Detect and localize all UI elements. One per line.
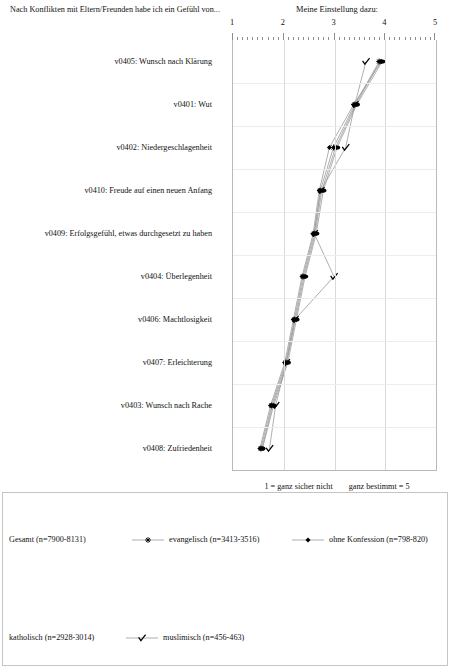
legend-label-gesamt: Gesamt (n=7900-8131) [9,533,86,547]
horizontal-gridline [233,341,436,342]
horizontal-gridline [233,169,436,170]
horizontal-gridline [233,255,436,256]
horizontal-gridline [233,126,436,127]
category-label: v0404: Überlegenheit [0,272,218,282]
legend-item-evangelisch: evangelisch (n=3413-3516) [131,533,259,547]
check-icon [125,632,159,644]
legend-item-gesamt: Gesamt (n=7900-8131) [9,533,86,547]
horizontal-gridline [233,83,436,84]
legend-item-muslimisch: muslimisch (n=456-463) [125,631,244,645]
legend-row-1: Gesamt (n=7900-8131) evangelisch (n=3413… [3,533,447,547]
category-label: v0407: Erleichterung [0,358,218,368]
legend: Gesamt (n=7900-8131) evangelisch (n=3413… [2,492,448,666]
category-label: v0405: Wunsch nach Klärung [0,57,218,67]
scale-high-label: ganz bestimmt = 5 [349,482,410,491]
horizontal-gridline [233,427,436,428]
dot-marker [259,446,265,450]
check-marker [139,635,146,641]
diamond-icon [291,534,325,546]
y-axis-title: Nach Konflikten mit Eltern/Freunden habe… [4,4,226,15]
legend-label-evangelisch: evangelisch (n=3413-3516) [169,533,259,547]
scale-low-label: 1 = ganz sicher nicht [264,482,332,491]
legend-label-muslimisch: muslimisch (n=456-463) [163,631,244,645]
plot-area [232,40,437,471]
legend-label-katholisch: katholisch (n=2928-3014) [9,631,94,645]
legend-row-2: katholisch (n=2928-3014) muslimisch (n=4… [3,631,447,645]
category-label: v0401: Wut [0,100,218,110]
check-marker [363,58,370,64]
diamond-marker [306,538,311,543]
legend-item-ohne-konfession: ohne Konfession (n=798-820) [291,533,428,547]
dot-marker [302,274,308,278]
category-label: v0410: Freude auf einen neuen Anfang [0,186,218,196]
horizontal-gridline [233,298,436,299]
x-axis-tick-label: 2 [281,18,285,27]
x-axis-tick-label: 1 [230,18,234,27]
chart-title: Meine Einstellung dazu: [228,4,446,15]
x-axis-tick-label: 4 [382,18,386,27]
legend-label-ohne-konfession: ohne Konfession (n=798-820) [329,533,428,547]
star-icon [131,534,165,546]
x-axis-tick [283,33,284,40]
x-axis-tick-label: 3 [331,18,335,27]
x-axis-tick-label: 5 [433,18,437,27]
x-axis-tick [384,33,385,40]
chart-page: Nach Konflikten mit Eltern/Freunden habe… [0,0,450,669]
legend-item-katholisch: katholisch (n=2928-3014) [9,631,94,645]
x-axis-tick [434,33,435,40]
category-label: v0406: Machtlosigkeit [0,315,218,325]
star-marker [145,537,151,543]
horizontal-gridline [233,384,436,385]
category-label: v0403: Wunsch nach Rache [0,401,218,411]
x-axis-tick [232,33,233,40]
horizontal-gridline [233,212,436,213]
category-label: v0409: Erfolgsgefühl, etwas durchgesetzt… [0,229,218,239]
category-label: v0408: Zufriedenheit [0,444,218,454]
category-label: v0402: Niedergeschlagenheit [0,143,218,153]
x-axis-tick [334,33,335,40]
scale-anchor-note: 1 = ganz sicher nicht ganz bestimmt = 5 [228,482,446,491]
